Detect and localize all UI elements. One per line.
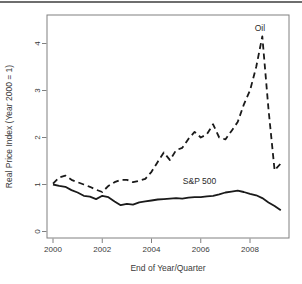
y-axis-ticks: 01234 xyxy=(33,41,47,234)
plot-border xyxy=(47,15,289,238)
y-axis-title: Real Price Index (Year 2000 = 1) xyxy=(4,65,14,188)
y-tick-label: 3 xyxy=(33,88,42,93)
real-price-index-chart: 20002002200420062008 01234 OilS&P 500 En… xyxy=(0,0,302,284)
series-label-s-p-500: S&P 500 xyxy=(183,176,217,186)
x-tick-label: 2008 xyxy=(241,245,259,254)
y-tick-label: 2 xyxy=(33,135,42,140)
series-lines xyxy=(53,36,281,210)
x-tick-label: 2006 xyxy=(192,245,210,254)
x-axis-ticks: 20002002200420062008 xyxy=(44,239,259,254)
series-line-s-p-500 xyxy=(53,185,281,211)
series-line-oil xyxy=(53,36,281,192)
series-labels: OilS&P 500 xyxy=(183,23,265,186)
y-tick-label: 0 xyxy=(33,229,42,234)
x-tick-label: 2000 xyxy=(44,245,62,254)
x-tick-label: 2004 xyxy=(143,245,161,254)
y-tick-label: 4 xyxy=(33,41,42,46)
x-axis-title: End of Year/Quarter xyxy=(130,263,205,273)
series-label-oil: Oil xyxy=(255,23,266,33)
y-tick-label: 1 xyxy=(33,182,42,187)
x-tick-label: 2002 xyxy=(93,245,111,254)
